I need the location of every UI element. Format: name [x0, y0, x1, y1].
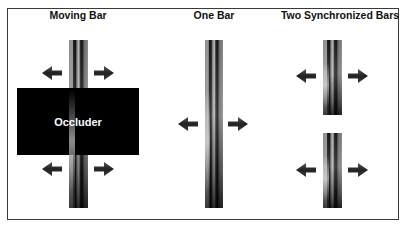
- arrow-right-icon: [94, 162, 114, 176]
- arrow-left-icon: [178, 117, 198, 131]
- arrow-right-icon: [348, 163, 368, 177]
- sync-bar-top: [323, 40, 342, 115]
- moving-bar-title: Moving Bar: [49, 9, 106, 21]
- arrow-right-icon: [228, 117, 248, 131]
- sync-bar-bottom: [323, 133, 342, 208]
- arrow-left-icon: [42, 66, 62, 80]
- one-bar-title: One Bar: [194, 9, 235, 21]
- arrow-right-icon: [348, 69, 368, 83]
- arrow-right-icon: [94, 66, 114, 80]
- one-bar: [205, 40, 223, 208]
- two-bars-title: Two Synchronized Bars: [281, 9, 399, 21]
- occluder-label: Occluder: [54, 116, 102, 128]
- arrow-left-icon: [296, 163, 316, 177]
- occluder: Occluder: [17, 88, 139, 155]
- arrow-left-icon: [296, 69, 316, 83]
- arrow-left-icon: [42, 162, 62, 176]
